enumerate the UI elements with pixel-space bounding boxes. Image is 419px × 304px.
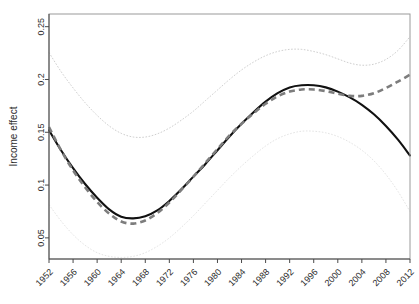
chart-figure: 0.050.10.150.20.25 195219561960196419681… [0, 0, 419, 304]
income-effect-line-chart: 0.050.10.150.20.25 195219561960196419681… [0, 0, 419, 304]
y-tick-label: 0.2 [36, 73, 46, 86]
y-axis-title: Income effect [8, 106, 19, 166]
y-tick-label: 0.1 [36, 179, 46, 192]
y-tick-label: 0.25 [36, 18, 46, 36]
y-tick-label: 0.15 [36, 124, 46, 142]
y-tick-label: 0.05 [36, 229, 46, 247]
